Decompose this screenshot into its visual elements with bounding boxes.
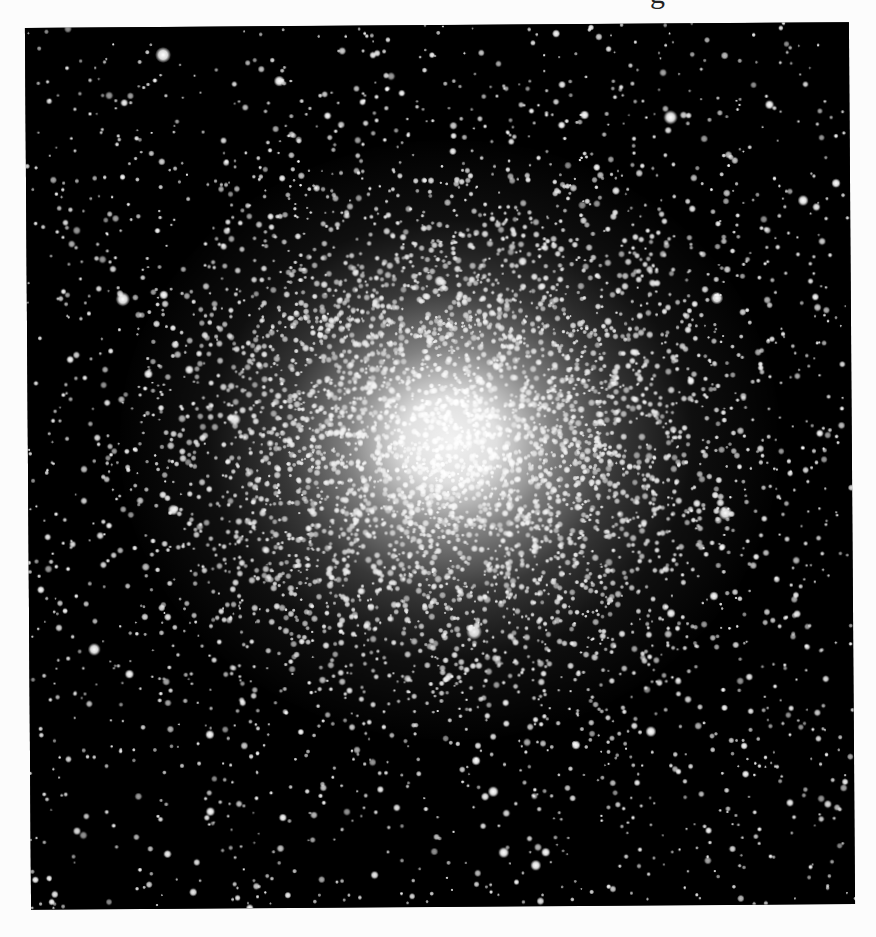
globular-cluster-photo xyxy=(25,22,855,910)
scanned-page: g xyxy=(0,0,876,937)
clipped-heading-text: g xyxy=(650,0,666,10)
